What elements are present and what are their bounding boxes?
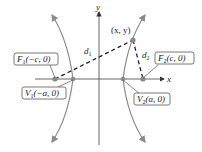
point-label: (x, y) xyxy=(111,25,131,35)
focus-f2-label: F2(c, 0) xyxy=(157,53,186,64)
vertex-v2-label: V2(a, 0) xyxy=(137,94,165,105)
y-axis-label: y xyxy=(95,2,100,12)
vertex-v2-point xyxy=(121,77,126,82)
focus-f1-label: F1(−c, 0) xyxy=(16,54,51,65)
focus-f2-point xyxy=(140,76,145,81)
hyperbola-diagram: x y (x, y) d1 d2 F1(−c, 0) F2(c, 0) V1(−… xyxy=(0,0,202,152)
point-xy xyxy=(130,37,135,42)
d2-label: d2 xyxy=(142,50,150,61)
right-branch-lower xyxy=(123,79,145,142)
d1-label: d1 xyxy=(84,46,92,57)
vertex-v1-label: V1(−a, 0) xyxy=(25,88,59,99)
d1-line xyxy=(55,40,133,79)
x-axis-label: x xyxy=(166,74,171,84)
left-branch xyxy=(52,15,73,79)
